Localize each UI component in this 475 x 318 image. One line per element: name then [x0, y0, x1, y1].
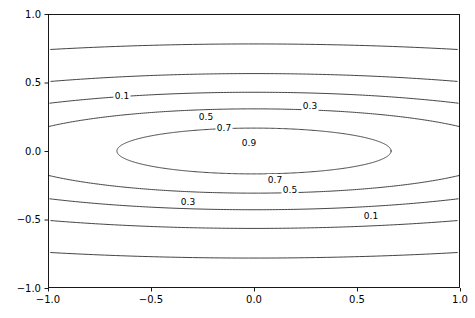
y-tick-label-3: 0.5 — [25, 77, 41, 88]
contour-plot-figure: −1.0−0.50.00.51.0−1.0−0.50.00.51.0 0.10.… — [0, 0, 475, 318]
contour-label-0-9-4: 0.9 — [242, 138, 257, 148]
axis-tick-labels-group: −1.0−0.50.00.51.0−1.0−0.50.00.51.0 — [17, 9, 468, 305]
axes-spines-group — [49, 15, 460, 288]
contour-label-0-1-0: 0.1 — [115, 91, 129, 101]
x-tick-label-4: 1.0 — [452, 294, 468, 305]
axes-frame — [49, 15, 460, 288]
axis-ticks-group — [45, 15, 461, 292]
contour-label-0-7-3: 0.7 — [217, 123, 231, 133]
contour-path-level-0.9 — [117, 128, 391, 174]
contour-path-level-0.1-seg-0 — [51, 44, 458, 50]
x-tick-label-0: −1.0 — [36, 294, 60, 305]
contour-label-0-1-8: 0.1 — [364, 211, 378, 221]
contour-label-0-3-7: 0.3 — [181, 197, 195, 207]
contour-path-level-0.7-seg-0 — [49, 109, 460, 127]
contour-labels-group: 0.10.30.50.70.90.70.50.30.1 — [114, 90, 380, 221]
contour-label-0-3-1: 0.3 — [303, 101, 317, 111]
contour-path-level-0.5-seg-1 — [50, 199, 458, 210]
y-tick-label-1: −0.5 — [17, 214, 41, 225]
contour-path-level-0.3-seg-1 — [51, 221, 457, 229]
x-tick-label-3: 0.5 — [349, 294, 365, 305]
y-tick-label-0: −1.0 — [17, 283, 41, 294]
plot-canvas: −1.0−0.50.00.51.0−1.0−0.50.00.51.0 0.10.… — [0, 0, 475, 318]
contour-path-level-0.1-seg-1 — [51, 253, 458, 259]
contour-label-0-7-5: 0.7 — [268, 175, 282, 185]
contour-lines-group — [49, 44, 460, 258]
contour-path-level-0.3-seg-0 — [51, 74, 457, 82]
y-tick-label-4: 1.0 — [25, 9, 41, 20]
x-tick-label-1: −0.5 — [139, 294, 163, 305]
contour-label-0-5-2: 0.5 — [199, 112, 213, 122]
contour-label-0-5-6: 0.5 — [283, 185, 297, 195]
x-tick-label-2: 0.0 — [246, 294, 262, 305]
contour-path-level-0.5-seg-0 — [50, 92, 458, 103]
y-tick-label-2: 0.0 — [25, 146, 41, 157]
contour-path-level-0.7-seg-1 — [49, 175, 460, 193]
